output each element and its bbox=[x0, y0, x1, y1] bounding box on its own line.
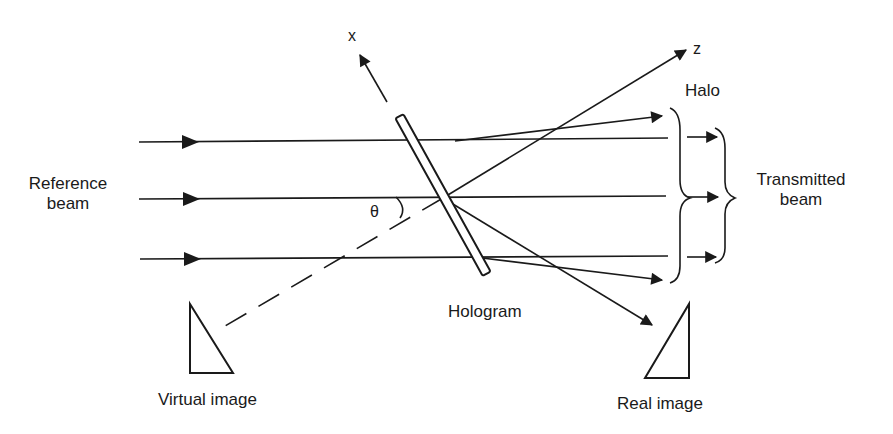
z-axis bbox=[225, 50, 686, 326]
reference-beam-label-line1: Reference bbox=[18, 174, 118, 194]
hologram-label: Hologram bbox=[448, 302, 522, 322]
transmitted-beam-label: Transmitted beam bbox=[738, 170, 864, 209]
transmitted-beam-label-line2: beam bbox=[738, 190, 864, 210]
virtual-image-triangle bbox=[190, 304, 233, 373]
transmitted-arrows bbox=[687, 137, 718, 257]
reference-beam-label-line2: beam bbox=[18, 194, 118, 214]
transmitted-brace bbox=[715, 128, 735, 263]
theta-label: θ bbox=[370, 203, 379, 221]
theta-arc bbox=[396, 197, 403, 218]
virtual-image-label: Virtual image bbox=[158, 390, 257, 410]
transmitted-beam-label-line1: Transmitted bbox=[738, 170, 864, 190]
z-axis-label: z bbox=[693, 40, 701, 58]
x-axis-label: x bbox=[348, 27, 356, 45]
reference-beam-rays bbox=[139, 135, 668, 266]
halo-rays bbox=[455, 116, 662, 280]
hologram-diagram bbox=[0, 0, 893, 434]
real-image-triangle bbox=[645, 304, 689, 378]
halo-label: Halo bbox=[685, 81, 720, 101]
real-image-label: Real image bbox=[617, 394, 703, 414]
x-axis bbox=[360, 55, 387, 102]
reference-beam-label: Reference beam bbox=[18, 174, 118, 213]
